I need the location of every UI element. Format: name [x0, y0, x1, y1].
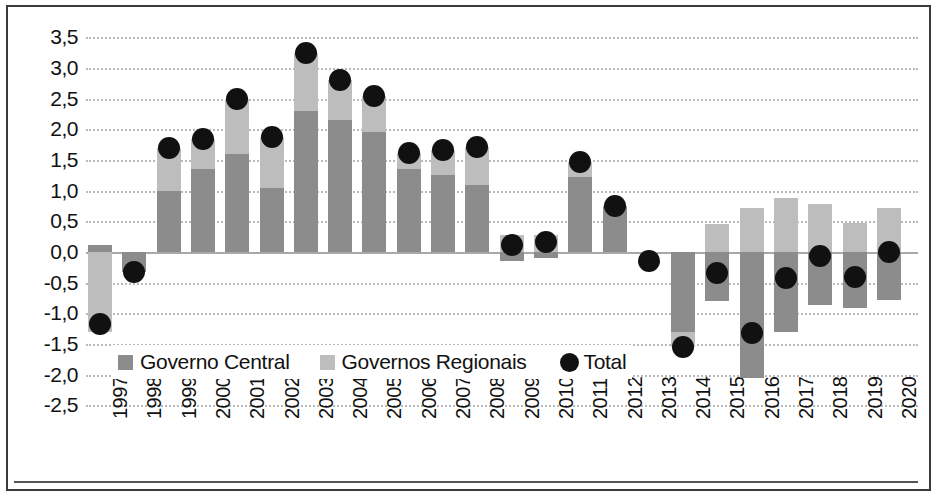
y-axis-tick-label: -0,5	[14, 271, 78, 295]
legend-label-governos-regionais: Governos Regionais	[342, 350, 527, 374]
chart-legend: Governo Central Governos Regionais Total	[112, 345, 632, 379]
bar-segment-governos-regionais	[705, 224, 729, 252]
x-axis-tick-label: 2008	[486, 377, 509, 420]
bar-segment-governo-central	[362, 132, 386, 252]
total-marker-dot-icon	[466, 136, 488, 158]
total-marker-dot-icon	[844, 266, 866, 288]
bar-segment-governo-central	[294, 111, 318, 252]
bar-segment-governo-central	[568, 177, 592, 252]
legend-label-governo-central: Governo Central	[140, 350, 290, 374]
x-axis-tick-label: 2003	[315, 377, 338, 420]
total-marker-dot-icon	[123, 261, 145, 283]
total-marker-dot-icon	[535, 231, 557, 253]
y-axis-tick-label: 2,5	[14, 87, 78, 111]
bar-segment-governo-central	[534, 252, 558, 258]
gridline	[86, 68, 918, 70]
legend-marker-total-circle-icon	[560, 353, 579, 372]
y-axis-tick-label: -1,5	[14, 332, 78, 356]
x-axis-tick-label: 2004	[349, 377, 372, 420]
legend-swatch-governos-regionais	[320, 355, 335, 370]
total-marker-dot-icon	[398, 142, 420, 164]
bar-segment-governo-central	[157, 191, 181, 252]
x-axis-tick-label: 1997	[109, 377, 132, 420]
legend-item-total: Total	[560, 350, 626, 374]
y-axis-tick-label: 3,0	[14, 56, 78, 80]
gridline	[86, 99, 918, 101]
bar-segment-governo-central	[774, 252, 798, 332]
x-axis-tick-label: 2002	[281, 377, 304, 420]
bar-segment-governos-regionais	[774, 198, 798, 252]
total-marker-dot-icon	[878, 241, 900, 263]
total-marker-dot-icon	[741, 322, 763, 344]
y-axis-tick-label: 2,0	[14, 117, 78, 141]
bar-segment-governo-central	[88, 245, 112, 252]
x-axis-tick-label: 2017	[795, 377, 818, 420]
total-marker-dot-icon	[295, 42, 317, 64]
total-marker-dot-icon	[226, 88, 248, 110]
total-marker-dot-icon	[501, 234, 523, 256]
bar-segment-governo-central	[328, 120, 352, 252]
x-axis-tick-label: 1999	[178, 377, 201, 420]
total-marker-dot-icon	[192, 128, 214, 150]
bar-segment-governo-central	[431, 175, 455, 252]
total-marker-dot-icon	[432, 139, 454, 161]
y-axis-tick-label: 1,0	[14, 179, 78, 203]
x-axis-tick-label: 2009	[521, 377, 544, 420]
y-axis-tick-label: 3,5	[14, 25, 78, 49]
bar-segment-governo-central	[260, 188, 284, 252]
y-axis-tick-label: -1,0	[14, 301, 78, 325]
y-axis-tick-label: -2,0	[14, 363, 78, 387]
total-marker-dot-icon	[569, 151, 591, 173]
x-axis-tick-label: 2014	[692, 377, 715, 420]
legend-label-total: Total	[583, 350, 626, 374]
total-marker-dot-icon	[89, 313, 111, 335]
x-axis-tick-label: 2012	[624, 377, 647, 420]
legend-item-governos-regionais: Governos Regionais	[320, 350, 527, 374]
bar-segment-governo-central	[191, 169, 215, 252]
legend-swatch-governo-central	[118, 355, 133, 370]
y-axis-tick-label: 1,5	[14, 148, 78, 172]
bar-segment-governos-regionais	[843, 223, 867, 252]
total-marker-dot-icon	[672, 336, 694, 358]
bar-segment-governo-central	[225, 154, 249, 252]
total-marker-dot-icon	[363, 85, 385, 107]
y-axis-tick-label: 0,0	[14, 240, 78, 264]
bar-segment-governo-central	[671, 252, 695, 332]
total-marker-dot-icon	[604, 195, 626, 217]
bar-segment-governos-regionais	[740, 208, 764, 252]
x-axis-tick-label: 1998	[143, 377, 166, 420]
x-axis-tick-label: 2005	[383, 377, 406, 420]
x-axis-tick-label: 2020	[898, 377, 921, 420]
x-axis-tick-label: 2016	[761, 377, 784, 420]
x-axis-tick-label: 2019	[864, 377, 887, 420]
x-axis-tick-label: 2013	[658, 377, 681, 420]
total-marker-dot-icon	[775, 267, 797, 289]
x-axis-tick-label: 2010	[555, 377, 578, 420]
x-axis-tick-label: 2015	[726, 377, 749, 420]
chart-plot-area: 3,53,02,52,01,51,00,50,0-0,5-1,0-1,5-2,0…	[0, 0, 939, 501]
x-axis-tick-label: 2011	[589, 378, 612, 419]
x-axis-tick-label: 2007	[452, 377, 475, 420]
x-axis-tick-label: 2001	[246, 377, 269, 420]
x-axis-tick-label: 2000	[212, 377, 235, 420]
bar-segment-governo-central	[397, 169, 421, 252]
x-axis-tick-label: 2006	[418, 377, 441, 420]
bar-segment-governo-central	[465, 185, 489, 252]
y-axis-tick-label: -2,5	[14, 393, 78, 417]
total-marker-dot-icon	[638, 250, 660, 272]
legend-item-governo-central: Governo Central	[118, 350, 290, 374]
y-axis-tick-label: 0,5	[14, 209, 78, 233]
total-marker-dot-icon	[158, 137, 180, 159]
x-axis-baseline	[14, 481, 918, 483]
x-axis-tick-label: 2018	[829, 377, 852, 420]
total-marker-dot-icon	[261, 126, 283, 148]
gridline	[86, 37, 918, 39]
bar-segment-governo-central	[740, 252, 764, 378]
